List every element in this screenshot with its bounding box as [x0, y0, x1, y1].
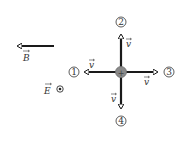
svg-text:1: 1 — [71, 67, 77, 77]
svg-text:3: 3 — [166, 67, 172, 77]
v-label-2: v — [126, 38, 132, 49]
diagram-canvas: B E v v v v + — [0, 0, 191, 155]
v-label-1: v — [89, 59, 95, 70]
direction-label-4: 4 — [116, 116, 126, 126]
svg-text:2: 2 — [118, 17, 124, 27]
direction-label-2: 2 — [116, 17, 126, 27]
svg-text:v: v — [144, 77, 149, 87]
svg-text:+: + — [118, 69, 125, 78]
direction-label-3: 3 — [164, 67, 174, 77]
v-label-3: v — [144, 76, 150, 87]
e-label: E — [43, 86, 51, 96]
svg-text:v: v — [89, 60, 94, 70]
svg-text:v: v — [126, 39, 131, 49]
svg-text:4: 4 — [118, 116, 124, 126]
v-label-4: v — [111, 93, 117, 104]
svg-text:v: v — [111, 94, 116, 104]
e-field: E — [43, 83, 63, 96]
positive-charge-particle: + — [116, 67, 127, 78]
direction-label-1: 1 — [69, 67, 79, 77]
b-label: B — [22, 53, 30, 63]
b-field-arrow: B — [18, 46, 54, 63]
